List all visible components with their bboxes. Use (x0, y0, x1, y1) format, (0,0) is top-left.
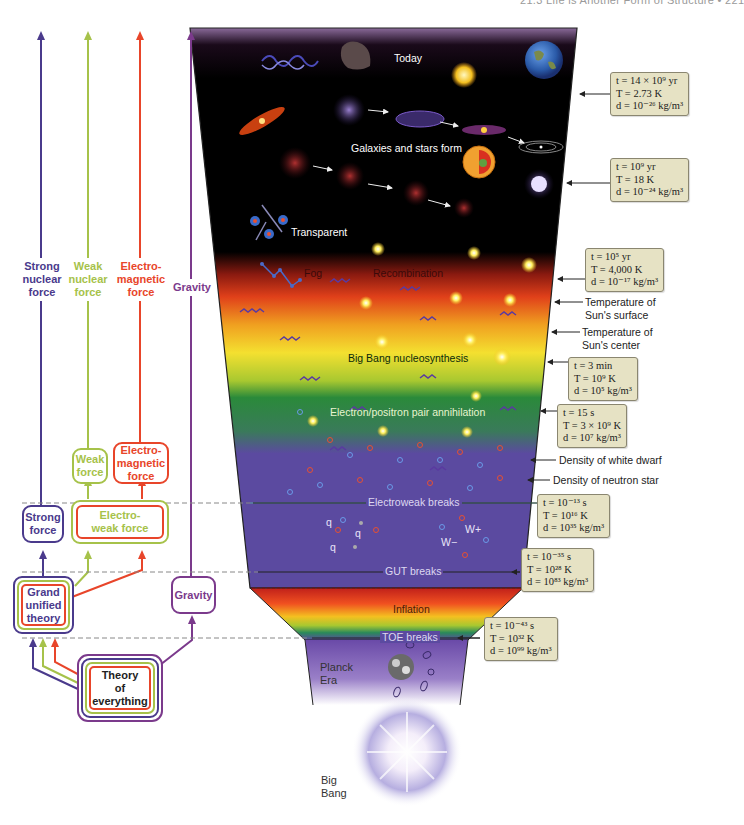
note-white-dwarf-density: Density of white dwarf (559, 454, 662, 467)
sun-icon (451, 62, 477, 88)
density-value: d = 10⁻¹⁷ kg/m³ (591, 276, 658, 289)
time-value: t = 10⁵ yr (591, 251, 658, 264)
label-line: force (114, 286, 168, 299)
earth-icon (525, 41, 563, 79)
electromagnetic-force-label: Electro- magnetic force (114, 258, 168, 301)
density-value: d = 10⁹⁹ kg/m³ (490, 645, 552, 658)
label-gut-breaks: GUT breaks (383, 565, 443, 577)
info-box-galaxies: t = 10⁹ yr T = 18 K d = 10⁻²⁴ kg/m³ (610, 158, 689, 202)
temperature-value: T = 10⁹ K (574, 373, 632, 386)
note-line: Temperature of (585, 296, 656, 309)
box-line: Weak (76, 453, 105, 466)
info-box-electroweak: t = 10⁻¹³ s T = 10¹⁶ K d = 10³⁵ kg/m³ (537, 494, 610, 538)
density-value: d = 10³⁵ kg/m³ (543, 522, 604, 535)
theory-of-everything-box: Theoryofeverything (77, 654, 163, 722)
density-value: d = 10⁷ kg/m³ (563, 432, 621, 445)
label-w-plus: W+ (465, 523, 481, 535)
density-value: d = 10⁻²⁴ kg/m³ (616, 186, 683, 199)
info-box-nucleosynthesis: t = 3 min T = 10⁹ K d = 10⁵ kg/m³ (568, 357, 638, 401)
label-line: Big (321, 774, 347, 787)
box-line: Theory (92, 669, 148, 682)
temperature-value: T = 4,000 K (591, 264, 658, 277)
density-value: d = 10⁻²⁶ kg/m³ (616, 100, 683, 113)
density-value: d = 10⁸³ kg/m³ (527, 576, 588, 589)
temperature-value: T = 18 K (616, 174, 683, 187)
label-line: Era (320, 674, 353, 687)
label-line: force (66, 286, 110, 299)
weak-nuclear-force-label: Weak nuclear force (66, 258, 110, 301)
info-box-gut: t = 10⁻³⁵ s T = 10²⁸ K d = 10⁸³ kg/m³ (521, 548, 594, 592)
box-line: Electro- (117, 444, 165, 457)
label-toe-breaks: TOE breaks (380, 631, 440, 643)
note-sun-center-temperature: Temperature of Sun's center (582, 326, 653, 352)
time-value: t = 10⁻³⁵ s (527, 551, 588, 564)
box-line: force (25, 524, 60, 537)
label-quark-3: q (330, 541, 336, 553)
note-neutron-star-density: Density of neutron star (553, 474, 659, 487)
info-box-toe: t = 10⁻⁴³ s T = 10³² K d = 10⁹⁹ kg/m³ (484, 617, 558, 661)
box-line: of (92, 682, 148, 695)
box-line: Grand (25, 586, 61, 599)
gravity-box: Gravity (171, 576, 216, 614)
info-box-annihilation: t = 15 s T = 3 × 10⁹ K d = 10⁷ kg/m³ (557, 404, 627, 448)
label-line: Weak (66, 260, 110, 273)
time-value: t = 10⁻¹³ s (543, 497, 604, 510)
note-line: Sun's center (582, 339, 653, 352)
label-line: Planck (320, 661, 353, 674)
label-recombination: Recombination (373, 267, 443, 279)
box-line: everything (92, 695, 148, 708)
note-sun-surface-temperature: Temperature of Sun's surface (585, 296, 656, 322)
label-fog: Fog (304, 267, 322, 279)
label-w-minus: W− (441, 536, 457, 548)
box-line: Strong (25, 511, 60, 524)
time-value: t = 14 × 10⁹ yr (616, 75, 683, 88)
box-line: Gravity (175, 589, 213, 602)
box-line: theory (25, 612, 61, 625)
box-line: force (117, 470, 165, 483)
strong-force-box: Strongforce (22, 505, 64, 543)
box-line: weak force (92, 522, 149, 535)
label-line: nuclear (20, 273, 64, 286)
label-galaxies-and-stars-form: Galaxies and stars form (351, 142, 462, 154)
planck-era-label: Planck Era (320, 661, 353, 687)
label-electroweak-breaks: Electroweak breaks (366, 496, 462, 508)
label-transparent: Transparent (291, 226, 347, 238)
weak-force-box: Weakforce (72, 448, 108, 484)
electromagnetic-force-box: Electro-magneticforce (113, 442, 169, 484)
time-value: t = 3 min (574, 360, 632, 373)
grand-unified-theory-box: Grandunifiedtheory (13, 576, 74, 634)
label-line: Gravity (170, 281, 214, 294)
box-line: unified (25, 599, 61, 612)
temperature-value: T = 10³² K (490, 633, 552, 646)
gravity-force-label: Gravity (170, 279, 214, 296)
temperature-value: T = 2.73 K (616, 88, 683, 101)
label-inflation: Inflation (393, 603, 430, 615)
label-today: Today (394, 52, 422, 64)
big-bang-label: Big Bang (321, 774, 347, 800)
label-line: Strong (20, 260, 64, 273)
temperature-value: T = 10²⁸ K (527, 564, 588, 577)
note-line: Temperature of (582, 326, 653, 339)
time-value: t = 10⁹ yr (616, 161, 683, 174)
note-line: Sun's surface (585, 309, 656, 322)
info-box-today: t = 14 × 10⁹ yr T = 2.73 K d = 10⁻²⁶ kg/… (610, 72, 689, 116)
label-line: Bang (321, 787, 347, 800)
label-line: nuclear (66, 273, 110, 286)
density-value: d = 10⁵ kg/m³ (574, 385, 632, 398)
info-box-recombination: t = 10⁵ yr T = 4,000 K d = 10⁻¹⁷ kg/m³ (585, 248, 664, 292)
label-line: Electro- (114, 260, 168, 273)
label-line: magnetic (114, 273, 168, 286)
time-value: t = 10⁻⁴³ s (490, 620, 552, 633)
time-value: t = 15 s (563, 407, 621, 420)
temperature-value: T = 10¹⁶ K (543, 510, 604, 523)
label-quark-2: q (355, 527, 361, 539)
electroweak-force-box: Electro-weak force (71, 500, 169, 544)
label-line: force (20, 286, 64, 299)
box-line: Electro- (92, 509, 149, 522)
label-quark-1: q (326, 516, 332, 528)
label-big-bang-nucleosynthesis: Big Bang nucleosynthesis (348, 352, 468, 364)
box-line: force (76, 466, 105, 479)
temperature-value: T = 3 × 10⁹ K (563, 420, 621, 433)
label-pair-annihilation: Electron/positron pair annihilation (330, 406, 485, 418)
box-line: magnetic (117, 457, 165, 470)
